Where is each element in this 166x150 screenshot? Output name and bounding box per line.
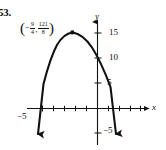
- x-axis: [27, 106, 149, 112]
- y-axis: [95, 22, 102, 145]
- vertex-close-paren: ): [49, 20, 54, 36]
- y-tick-label-15: 15: [109, 28, 118, 37]
- vertex-point: [70, 30, 74, 34]
- vertex-y-fraction: 1218: [38, 21, 49, 35]
- vertex-y-numerator: 121: [38, 21, 49, 27]
- y-tick-label-5: 5: [107, 78, 112, 87]
- y-tick-label-10: 10: [109, 53, 118, 62]
- vertex-label: (−94,1218): [20, 21, 54, 36]
- vertex-y-denominator: 8: [38, 28, 49, 35]
- y-axis-label: y: [95, 12, 99, 21]
- parabola-curve: [38, 30, 116, 134]
- vertex-minus-sign: −: [25, 23, 30, 32]
- y-tick-label-neg5: −5: [103, 126, 113, 135]
- x-tick-label-neg5: −5: [17, 112, 27, 121]
- problem-number: 53.: [0, 7, 11, 18]
- x-axis-label: x: [152, 103, 156, 112]
- figure-container: 53. (−94,1218) 15 10 5 −5 −5 x y: [0, 0, 166, 150]
